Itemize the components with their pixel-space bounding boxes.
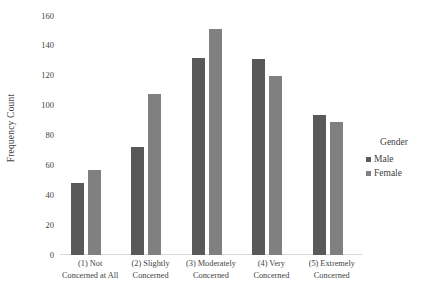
bar-female bbox=[88, 170, 101, 255]
y-axis-tick-label: 60 bbox=[46, 161, 55, 170]
y-axis-tick-label: 40 bbox=[46, 191, 55, 200]
bar-male bbox=[192, 58, 205, 255]
y-axis-tick-label: 160 bbox=[41, 12, 54, 21]
bar-female bbox=[330, 122, 343, 255]
y-axis-tick-label: 120 bbox=[41, 71, 54, 80]
bar-male bbox=[131, 147, 144, 255]
bar-group bbox=[120, 16, 180, 255]
bar-male bbox=[252, 59, 265, 255]
bar-group bbox=[60, 16, 120, 255]
legend-entry-male: Male bbox=[366, 152, 424, 166]
bar-group bbox=[241, 16, 301, 255]
y-axis-tick-label: 20 bbox=[46, 221, 55, 230]
y-axis-tick-label: 80 bbox=[46, 131, 55, 140]
legend: Gender MaleFemale bbox=[366, 136, 424, 180]
x-axis-tick-label: (5) ExtremelyConcerned bbox=[294, 258, 370, 281]
grouped-bar-chart: Frequency Count 020406080100120140160 (1… bbox=[0, 0, 424, 297]
y-axis-title-text: Frequency Count bbox=[6, 93, 16, 162]
legend-swatch-icon bbox=[366, 171, 371, 176]
x-axis-tick-label-line1: (5) Extremely bbox=[294, 258, 370, 270]
legend-entries: MaleFemale bbox=[366, 152, 424, 180]
bar-female bbox=[269, 76, 282, 255]
legend-title: Gender bbox=[366, 136, 424, 149]
y-axis-title: Frequency Count bbox=[2, 0, 20, 255]
legend-label: Female bbox=[374, 168, 402, 178]
plot-area bbox=[60, 16, 362, 255]
bar-male bbox=[313, 115, 326, 255]
bar-female bbox=[209, 29, 222, 255]
bar-group bbox=[302, 16, 362, 255]
bar-male bbox=[71, 183, 84, 255]
y-axis-tick-label: 140 bbox=[41, 41, 54, 50]
legend-entry-female: Female bbox=[366, 166, 424, 180]
y-axis-tick-labels: 020406080100120140160 bbox=[20, 0, 58, 297]
x-axis-tick-labels: (1) NotConcerned at All(2) SlightlyConce… bbox=[60, 258, 362, 296]
bar-female bbox=[148, 94, 161, 255]
x-axis-tick-label-line2: Concerned bbox=[294, 270, 370, 282]
legend-swatch-icon bbox=[366, 157, 371, 162]
legend-label: Male bbox=[374, 154, 394, 164]
bar-group bbox=[181, 16, 241, 255]
y-axis-tick-label: 100 bbox=[41, 101, 54, 110]
